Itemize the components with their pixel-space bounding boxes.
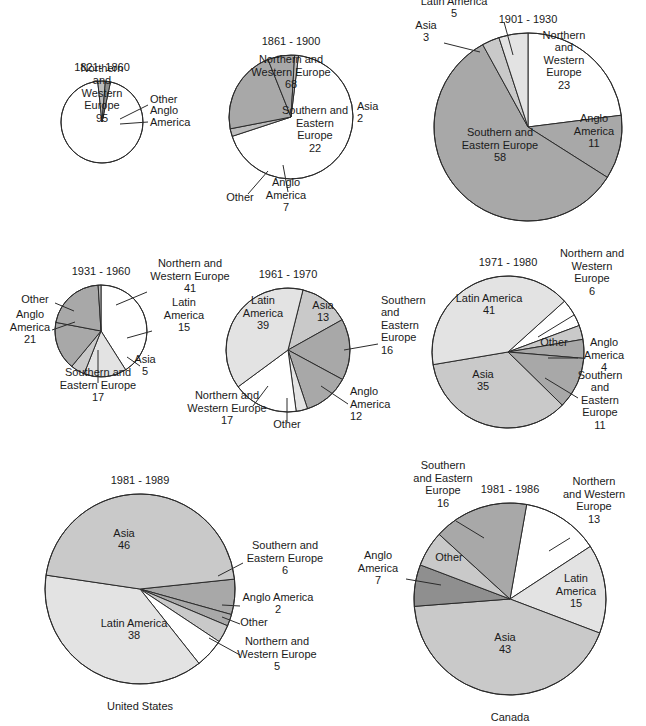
pie-label-southern-and-eastern-europe: Southern and Eastern Europe 58: [410, 126, 590, 164]
pie-label-anglo-america: Anglo America 7: [288, 549, 468, 587]
pie-label-latin-america: Latin America 15: [486, 572, 646, 610]
pie-slice-anglo-america: [288, 350, 343, 409]
pie-chart-us-1901-1930: 1901 - 1930Northern and Western Europe 2…: [0, 0, 646, 726]
pie-label-other: Other: [464, 336, 644, 349]
pie-slice-other: [140, 589, 228, 642]
pie-label-northern-and-western-europe: Northern and Western Europe 95: [12, 62, 192, 125]
pie-slice-latin-america: [226, 288, 303, 387]
pie-outline-canada-1981-1986: [414, 503, 606, 695]
pie-svg-us-1931-1960: [0, 0, 646, 726]
leader-line-southern-and-eastern-europe: [218, 563, 243, 576]
pie-slice-northern-and-western-europe: [528, 33, 621, 127]
pie-svg-us-1961-1970: [0, 0, 646, 726]
pie-slice-anglo-america: [528, 115, 622, 177]
leader-line-latin-america: [127, 331, 152, 338]
pie-label-asia: Asia 5: [55, 353, 235, 378]
pie-label-northern-and-western-europe: Northern and Western Europe 6: [502, 247, 646, 297]
pie-outline-us-1971-1980: [432, 276, 584, 428]
pie-slice-southern-and-eastern-europe: [288, 320, 350, 380]
pie-slice-asia: [414, 599, 599, 695]
leader-line-anglo-america: [120, 122, 148, 124]
pie-slice-northern-and-western-europe: [101, 285, 147, 370]
pie-label-other: Other: [197, 418, 377, 431]
pie-title-us-1981-1989: 1981 - 1989: [40, 474, 240, 486]
leader-line-other: [55, 303, 74, 311]
pie-chart-us-1931-1960: 1931 - 1960Northern and Western Europe 4…: [0, 0, 646, 726]
pie-slice-northern-and-western-europe: [238, 350, 296, 412]
leader-line-asia: [504, 22, 513, 55]
pie-slice-southern-and-eastern-europe: [434, 45, 607, 221]
pie-label-southern-and-eastern-europe: Southern and Eastern Europe 17: [8, 366, 188, 404]
pie-label-anglo-america: Anglo America 12: [350, 385, 390, 423]
pie-title-us-1901-1930: 1901 - 1930: [428, 13, 628, 25]
leader-line-anglo-america: [406, 579, 441, 585]
pie-label-northern-and-western-europe: Northern and Western Europe 17: [137, 389, 317, 427]
pie-outline-us-1821-1860: [61, 81, 143, 163]
pie-title-us-1861-1900: 1861 - 1900: [191, 35, 391, 47]
leader-line-northern-and-western-europe: [116, 292, 147, 305]
pie-slice-other: [288, 350, 308, 411]
pie-slice-anglo-america: [414, 565, 510, 606]
pie-label-anglo-america: Anglo America: [150, 104, 190, 129]
pie-label-northern-and-western-europe: Northern and Western Europe 13: [504, 475, 646, 525]
pie-label-other: Other: [164, 616, 344, 629]
pie-slice-anglo-america: [508, 339, 584, 358]
pie-label-southern-and-eastern-europe: Southern and Eastern Europe 11: [510, 369, 646, 432]
leader-line-northern-and-western-europe: [538, 315, 574, 337]
pie-svg-us-1821-1860: [0, 0, 646, 726]
pie-label-northern-and-western-europe: Northern and Western Europe 41: [100, 257, 280, 295]
pie-label-other: Other: [150, 191, 330, 204]
pie-slice-southern-and-eastern-europe: [140, 579, 235, 614]
leader-line-anglo-america: [321, 386, 348, 404]
pie-svg-us-1971-1980: [0, 0, 646, 726]
pie-slice-anglo-america: [56, 285, 101, 331]
pie-slice-northern-and-western-europe: [510, 504, 590, 599]
pie-outline-us-1981-1989: [45, 494, 235, 684]
pie-slice-northern-and-western-europe: [232, 55, 353, 179]
pie-slice-other: [420, 534, 510, 599]
pie-slice-anglo-america: [268, 55, 295, 117]
leader-line-latin-america: [444, 43, 480, 52]
pie-caption-us-1981-1989: United States: [40, 700, 240, 712]
pie-label-latin-america: Latin America 38: [44, 617, 224, 642]
pie-chart-us-1861-1900: 1861 - 1900Northern and Western Europe 6…: [0, 0, 646, 726]
pie-outline-us-1931-1960: [55, 285, 147, 377]
pie-chart-us-1981-1989: 1981 - 1989United StatesSouthern and Eas…: [0, 0, 646, 726]
pie-label-latin-america: Latin America 15: [94, 296, 274, 334]
pie-svg-us-1901-1930: [0, 0, 646, 726]
pie-label-southern-and-eastern-europe: Southern and Eastern Europe 16: [353, 459, 533, 509]
leader-line-other: [222, 617, 240, 624]
pie-caption-canada-1981-1986: Canada: [410, 711, 610, 723]
pie-label-latin-america: Asia 3: [336, 19, 516, 44]
pie-slice-other: [508, 326, 583, 352]
leader-line-northern-and-western-europe: [549, 538, 570, 551]
pie-slice-asia: [288, 290, 342, 350]
pie-label-asia: Latin America 5: [364, 0, 544, 20]
pie-outline-us-1901-1930: [434, 33, 622, 221]
pie-slice-latin-america: [432, 276, 564, 365]
pie-slice-southern-and-eastern-europe: [508, 352, 584, 405]
pie-label-anglo-america: Anglo America 4: [514, 336, 646, 374]
pie-slice-asia: [46, 494, 234, 589]
pie-slice-northern-and-western-europe: [61, 81, 143, 163]
leader-line-anglo-america: [222, 605, 240, 606]
pie-slice-other: [98, 285, 101, 331]
pie-title-canada-1981-1986: 1981 - 1986: [410, 483, 610, 495]
pie-slice-southern-and-eastern-europe: [55, 322, 101, 366]
pie-label-other: Other: [150, 93, 178, 106]
pie-slice-latin-america: [84, 331, 126, 377]
pie-svg-canada-1981-1986: [0, 0, 646, 726]
pie-label-asia: Asia 35: [393, 368, 573, 393]
pie-slice-northern-and-western-europe: [508, 301, 579, 352]
pie-label-asia: Asia 13: [233, 299, 413, 324]
leader-line-anglo-america: [52, 322, 75, 330]
leader-line-southern-and-eastern-europe: [545, 378, 578, 398]
pie-label-other: Other: [0, 293, 125, 306]
pie-slice-northern-and-western-europe: [140, 589, 219, 663]
pie-slice-latin-america: [510, 546, 606, 633]
pie-chart-us-1971-1980: 1971 - 1980Northern and Western Europe 6…: [0, 0, 646, 726]
pie-label-anglo-america: Anglo America 11: [504, 112, 646, 150]
leader-line-anglo-america: [283, 165, 288, 192]
leader-line-northern-and-western-europe: [253, 386, 268, 406]
pie-label-southern-and-eastern-europe: Southern and Eastern Europe 16: [381, 294, 426, 357]
